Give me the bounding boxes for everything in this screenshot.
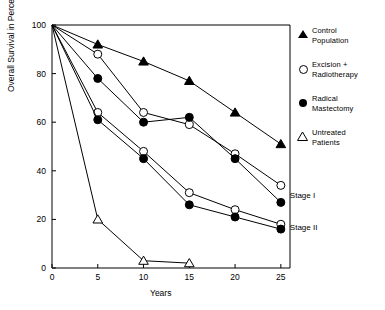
data-series — [52, 25, 286, 267]
open-triangle-icon — [296, 128, 312, 148]
x-tick-label: 5 — [95, 272, 100, 282]
legend-item-excision-radiotherapy: Excision + Radiotherapy — [296, 60, 382, 80]
annotations: Stage IStage II — [290, 191, 318, 232]
x-axis-title: Years — [150, 288, 171, 298]
y-tick-label: 80 — [37, 69, 47, 79]
series-3 — [52, 25, 285, 228]
annotation-label: Stage I — [290, 191, 315, 200]
y-tick-label: 60 — [37, 117, 47, 127]
series-1 — [52, 25, 285, 189]
legend-item-radical-mastectomy: Radical Mastectomy — [296, 94, 382, 114]
chart-legend: Control Population Excision + Radiothera… — [296, 26, 382, 162]
series-2 — [52, 25, 285, 206]
filled-circle-icon — [296, 94, 312, 114]
legend-label-line2: Population — [312, 36, 348, 46]
y-axis-title: Overall Survival in Percent — [6, 0, 16, 92]
legend-label-line2: Mastectomy — [312, 104, 353, 114]
series-5 — [52, 25, 194, 267]
x-tick-label: 20 — [230, 272, 240, 282]
x-tick-label: 10 — [139, 272, 149, 282]
legend-item-control-population: Control Population — [296, 26, 382, 46]
annotation-label: Stage II — [290, 223, 318, 232]
legend-label-line1: Excision + — [312, 60, 358, 70]
series-4 — [52, 25, 285, 233]
chart-root: 0204060801000510152025 Stage IStage II O… — [0, 0, 385, 310]
legend-label-line1: Radical — [312, 94, 353, 104]
y-tick-label: 40 — [37, 166, 47, 176]
open-circle-icon — [296, 60, 312, 80]
filled-triangle-icon — [296, 26, 312, 46]
legend-label-line2: Patients — [312, 138, 346, 148]
y-tick-label: 100 — [32, 20, 46, 30]
legend-label-line1: Untreated — [312, 128, 346, 138]
legend-item-untreated-patients: Untreated Patients — [296, 128, 382, 148]
x-tick-label: 25 — [276, 272, 286, 282]
x-tick-label: 15 — [185, 272, 195, 282]
legend-label-line1: Control — [312, 26, 348, 36]
x-tick-label: 0 — [50, 272, 55, 282]
legend-label-line2: Radiotherapy — [312, 70, 358, 80]
y-tick-label: 0 — [41, 263, 46, 273]
y-tick-label: 20 — [37, 214, 47, 224]
series-0 — [52, 25, 286, 148]
axes — [52, 25, 290, 268]
